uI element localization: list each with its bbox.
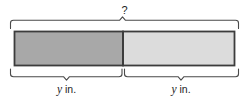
right-segment-bracket: [125, 69, 239, 80]
left-segment-label: y in.: [10, 84, 123, 96]
right-segment-bracket-path: [125, 69, 239, 80]
left-segment-rect: [15, 32, 124, 66]
total-bracket: [11, 17, 239, 29]
right-segment-rect: [123, 32, 235, 66]
total-length-label: ?: [0, 5, 249, 16]
tape-diagram: ? y in. y in.: [0, 0, 249, 102]
left-segment-unit: in.: [65, 83, 76, 95]
right-segment-label: y in.: [123, 84, 239, 96]
total-bracket-path: [11, 17, 239, 29]
right-segment-unit: in.: [179, 83, 190, 95]
left-segment-bracket: [11, 69, 123, 80]
left-segment-bracket-path: [11, 69, 123, 80]
